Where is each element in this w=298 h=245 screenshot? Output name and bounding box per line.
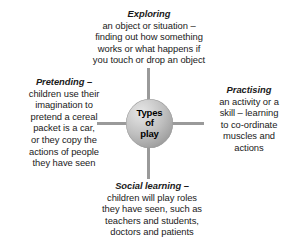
- branch-pretending: Pretending – children use their imaginat…: [13, 76, 115, 169]
- branch-pretending-line-6: actions of people: [13, 146, 115, 158]
- branch-social-learning-line-4: doctors and patients: [72, 226, 232, 238]
- spoke-connector-top: [147, 68, 150, 102]
- branch-practising-line-2: skill – learning: [203, 107, 295, 119]
- branch-practising: Practising an activity or a skill – lear…: [203, 84, 295, 154]
- branch-exploring: Exploring an object or situation – findi…: [63, 8, 235, 66]
- branch-pretending-line-4: packet is a car,: [13, 122, 115, 134]
- branch-social-learning-heading: Social learning –: [72, 180, 232, 192]
- hub-label-line-3: play: [140, 129, 158, 140]
- branch-practising-line-5: actions: [203, 142, 295, 154]
- branch-pretending-line-5: or they copy the: [13, 134, 115, 146]
- branch-exploring-line-2: finding out how something: [63, 31, 235, 43]
- branch-social-learning-line-1: children will play roles: [72, 192, 232, 204]
- branch-social-learning: Social learning – children will play rol…: [72, 180, 232, 238]
- branch-pretending-line-1: children use their: [13, 88, 115, 100]
- types-of-play-diagram: Types of play Exploring an object or sit…: [0, 0, 298, 245]
- branch-practising-line-3: to co-ordinate: [203, 119, 295, 131]
- branch-exploring-heading: Exploring: [63, 8, 235, 20]
- central-hub-sphere: Types of play: [126, 99, 173, 148]
- branch-exploring-line-1: an object or situation –: [63, 20, 235, 32]
- branch-practising-line-1: an activity or a: [203, 96, 295, 108]
- branch-exploring-line-3: works or what happens if: [63, 43, 235, 55]
- branch-exploring-line-4: you touch or drop an object: [63, 54, 235, 66]
- branch-pretending-heading: Pretending –: [13, 76, 115, 88]
- branch-social-learning-line-3: teachers and students,: [72, 215, 232, 227]
- branch-pretending-line-3: pretend a cereal: [13, 111, 115, 123]
- branch-pretending-line-7: they have seen: [13, 157, 115, 169]
- branch-practising-line-4: muscles and: [203, 130, 295, 142]
- branch-social-learning-line-2: they have seen, such as: [72, 203, 232, 215]
- spoke-connector-bottom: [147, 146, 150, 179]
- branch-pretending-line-2: imagination to: [13, 99, 115, 111]
- spoke-connector-right: [169, 122, 204, 125]
- branch-practising-heading: Practising: [203, 84, 295, 96]
